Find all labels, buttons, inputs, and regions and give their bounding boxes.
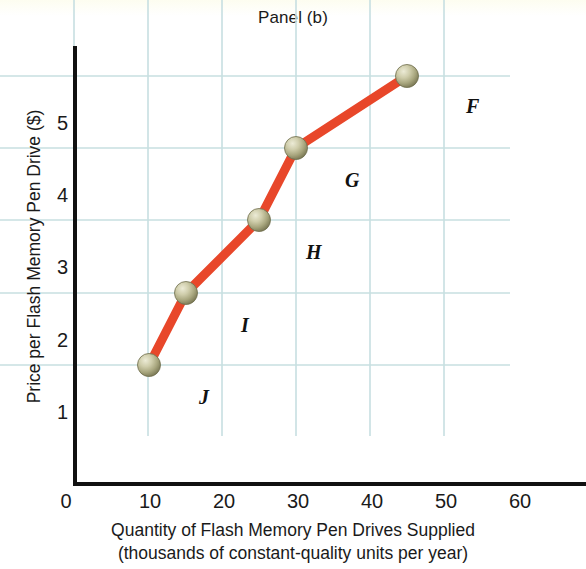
x-axis-title-line1: Quantity of Flash Memory Pen Drives Supp… <box>36 519 550 542</box>
x-axis-line <box>73 482 586 486</box>
y-axis-line <box>73 46 77 486</box>
x-tick-50: 50 <box>424 490 468 513</box>
x-axis-title-line2: (thousands of constant-quality units per… <box>36 542 550 565</box>
point-label-h: H <box>306 241 322 264</box>
x-tick-20: 20 <box>202 490 246 513</box>
x-tick-0: 0 <box>44 490 88 513</box>
point-label-i: I <box>241 314 249 337</box>
x-tick-60: 60 <box>498 490 542 513</box>
point-label-f: F <box>466 95 479 118</box>
x-tick-10: 10 <box>128 490 172 513</box>
supply-line <box>149 76 407 365</box>
x-tick-30: 30 <box>276 490 320 513</box>
x-tick-40: 40 <box>350 490 394 513</box>
y-axis-title: Price per Flash Memory Pen Drive ($) <box>24 47 45 467</box>
point-label-g: G <box>345 169 359 192</box>
x-axis-title: Quantity of Flash Memory Pen Drives Supp… <box>36 519 550 565</box>
data-point-markers <box>138 65 419 377</box>
point-label-j: J <box>199 386 209 409</box>
supply-curve-figure: Panel (b) <box>0 0 586 569</box>
